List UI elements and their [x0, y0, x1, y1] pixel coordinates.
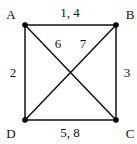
node-a [22, 22, 28, 28]
edge-label-ad: 2 [10, 65, 17, 80]
edge-label-ab: 1, 4 [60, 5, 80, 20]
node-d [22, 117, 28, 123]
edge-label-bc: 3 [124, 65, 131, 80]
graph-diagram: A B C D 1, 4 2 3 5, 8 6 7 [0, 0, 137, 144]
edge-label-bd: 7 [80, 36, 87, 51]
node-c [113, 117, 119, 123]
edge-label-dc: 5, 8 [60, 125, 80, 140]
node-label-d: D [6, 126, 15, 141]
node-b [113, 22, 119, 28]
node-label-c: C [126, 126, 135, 141]
node-label-b: B [126, 7, 135, 22]
edge-label-ac: 6 [55, 36, 62, 51]
node-label-a: A [6, 7, 16, 22]
